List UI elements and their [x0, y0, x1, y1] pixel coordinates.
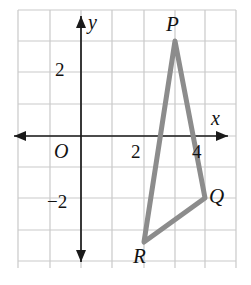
y-tick-label-neg2: −2 — [47, 192, 67, 211]
plot-canvas — [0, 0, 251, 285]
y-axis-arrow-down — [76, 250, 86, 262]
y-tick-label-2: 2 — [55, 60, 65, 79]
x-axis-arrow-left — [14, 131, 26, 141]
origin-label: O — [54, 141, 68, 161]
vertex-label-p: P — [166, 14, 179, 35]
x-tick-label-4: 4 — [192, 142, 202, 161]
y-axis-label: y — [88, 12, 97, 32]
x-tick-label-2: 2 — [131, 142, 141, 161]
y-axis — [76, 16, 86, 262]
x-axis-label: x — [211, 108, 220, 128]
coordinate-plane-figure: x y O 2 4 2 −2 P Q R — [0, 0, 251, 285]
y-axis-arrow-up — [76, 16, 86, 28]
vertex-label-q: Q — [209, 186, 224, 207]
vertex-label-r: R — [133, 246, 146, 267]
x-axis-arrow-right — [216, 131, 228, 141]
grid-lines — [18, 10, 236, 268]
